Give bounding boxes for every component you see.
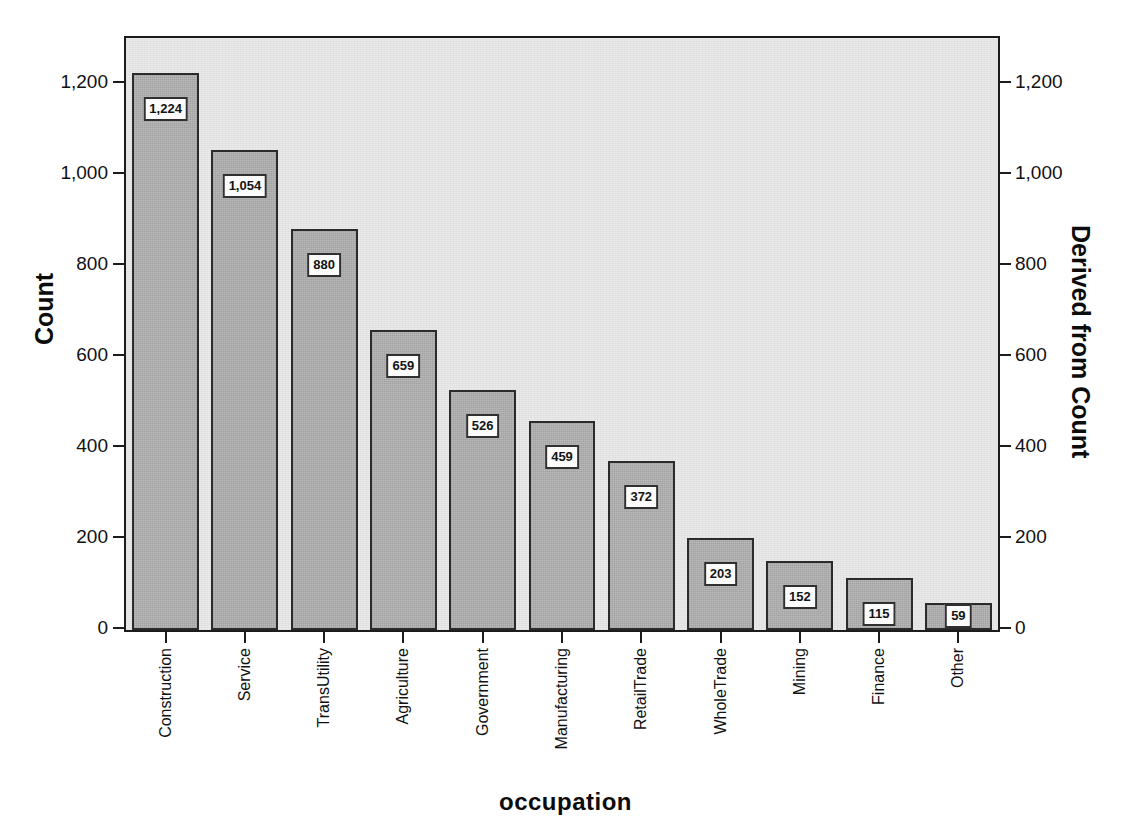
bar xyxy=(291,229,358,630)
y2-tick-mark xyxy=(1000,172,1011,174)
y2-tick-label: 1,000 xyxy=(1015,162,1063,184)
y2-tick-mark xyxy=(1000,627,1011,629)
y-axis-title: Count xyxy=(30,273,59,345)
y2-tick-mark xyxy=(1000,81,1011,83)
bars-layer: 1,2241,05488065952645937220315211559 xyxy=(126,38,998,630)
x-tick-label: Construction xyxy=(157,648,175,738)
x-tick-label: Manufacturing xyxy=(553,648,571,749)
y-tick-label: 600 xyxy=(76,344,108,366)
x-tick-label: Agriculture xyxy=(394,648,412,724)
y-tick-mark xyxy=(113,172,124,174)
bar xyxy=(132,73,199,630)
bar xyxy=(211,150,278,630)
x-tick-mark xyxy=(323,630,325,643)
x-tick-label: TransUtility xyxy=(315,648,333,727)
x-tick-label: WholeTrade xyxy=(712,648,730,735)
x-tick-label: Other xyxy=(949,648,967,688)
x-tick-mark xyxy=(957,630,959,643)
y2-axis-title: Derived from Count xyxy=(1066,225,1095,458)
y-tick-mark xyxy=(113,354,124,356)
x-tick-label: Mining xyxy=(791,648,809,695)
y-tick-mark xyxy=(113,445,124,447)
x-tick-mark xyxy=(561,630,563,643)
y-tick-mark xyxy=(113,536,124,538)
x-tick-mark xyxy=(402,630,404,643)
y2-tick-mark xyxy=(1000,263,1011,265)
y2-tick-mark xyxy=(1000,354,1011,356)
bar-value-label: 526 xyxy=(466,414,500,438)
bar-value-label: 1,054 xyxy=(223,174,268,198)
y2-tick-label: 1,200 xyxy=(1015,71,1063,93)
x-tick-mark xyxy=(482,630,484,643)
bar-value-label: 659 xyxy=(387,354,421,378)
bar-value-label: 880 xyxy=(307,253,341,277)
y-tick-label: 800 xyxy=(76,253,108,275)
y-tick-label: 1,200 xyxy=(60,71,108,93)
bar-value-label: 372 xyxy=(624,485,658,509)
y2-tick-mark xyxy=(1000,445,1011,447)
y2-tick-label: 200 xyxy=(1015,526,1047,548)
bar-value-label: 115 xyxy=(863,602,896,626)
bar-value-label: 59 xyxy=(945,604,971,628)
y2-tick-mark xyxy=(1000,536,1011,538)
y-tick-label: 200 xyxy=(76,526,108,548)
x-tick-mark xyxy=(640,630,642,643)
y-tick-label: 1,000 xyxy=(60,162,108,184)
x-tick-mark xyxy=(878,630,880,643)
y2-tick-label: 600 xyxy=(1015,344,1047,366)
x-tick-label: RetailTrade xyxy=(632,648,650,730)
y2-tick-label: 800 xyxy=(1015,253,1047,275)
x-tick-label: Service xyxy=(236,648,254,701)
y-tick-label: 400 xyxy=(76,435,108,457)
bar-value-label: 1,224 xyxy=(143,97,188,121)
y2-tick-label: 0 xyxy=(1015,617,1026,639)
x-tick-mark xyxy=(720,630,722,643)
bar-value-label: 203 xyxy=(704,562,738,586)
y-tick-mark xyxy=(113,263,124,265)
y-tick-mark xyxy=(113,627,124,629)
bar-value-label: 152 xyxy=(783,585,817,609)
plot-area: 1,2241,05488065952645937220315211559 xyxy=(124,36,1000,632)
x-tick-label: Finance xyxy=(870,648,888,705)
x-tick-mark xyxy=(799,630,801,643)
x-axis-title: occupation xyxy=(0,788,1131,816)
x-tick-mark xyxy=(244,630,246,643)
x-tick-mark xyxy=(165,630,167,643)
y-tick-label: 0 xyxy=(97,617,108,639)
bar-chart: 1,2241,05488065952645937220315211559 Con… xyxy=(0,0,1131,840)
bar-value-label: 459 xyxy=(545,445,579,469)
y-tick-mark xyxy=(113,81,124,83)
x-tick-label: Government xyxy=(474,648,492,736)
y2-tick-label: 400 xyxy=(1015,435,1047,457)
